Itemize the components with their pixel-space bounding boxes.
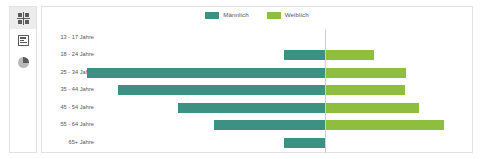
bar-male[interactable] [214,120,325,130]
chart-row: 13 - 17 Jahre [42,29,474,47]
sidebar [9,6,37,153]
chart-row: 65+ Jahre [42,134,474,152]
pie-chart-icon [18,57,29,68]
bar-male[interactable] [284,50,325,60]
chart-card: Männlich Weiblich 13 - 17 Jahre18 - 24 J… [41,6,473,153]
bar-female[interactable] [325,85,405,95]
chart-row: 45 - 54 Jahre [42,99,474,117]
legend-item-male[interactable]: Männlich [205,12,249,19]
bar-male[interactable] [284,138,325,148]
bar-female[interactable] [325,68,406,78]
bar-female[interactable] [325,50,374,60]
row-label: 35 - 44 Jahre [42,87,94,93]
chart-row: 25 - 34 Jahre [42,64,474,82]
row-label: 55 - 64 Jahre [42,122,94,128]
bar-female[interactable] [325,120,444,130]
bar-male[interactable] [118,85,325,95]
bar-list-icon [18,35,29,46]
row-label: 18 - 24 Jahre [42,52,94,58]
grid-icon [18,13,29,24]
chart-legend: Männlich Weiblich [42,12,472,19]
legend-swatch-male [205,12,219,19]
bar-male[interactable] [178,103,325,113]
sidebar-item-reports[interactable] [10,29,36,51]
chart-plot-area: 13 - 17 Jahre18 - 24 Jahre25 - 34 Jahre3… [42,29,474,153]
row-label: 45 - 54 Jahre [42,105,94,111]
legend-label-female: Weiblich [285,12,309,18]
center-axis [325,29,326,153]
chart-row: 35 - 44 Jahre [42,82,474,100]
legend-item-female[interactable]: Weiblich [267,12,309,19]
chart-row: 55 - 64 Jahre [42,117,474,135]
legend-swatch-female [267,12,281,19]
bar-female[interactable] [325,103,419,113]
chart-rows: 13 - 17 Jahre18 - 24 Jahre25 - 34 Jahre3… [42,29,474,153]
bar-male[interactable] [87,68,325,78]
chart-row: 18 - 24 Jahre [42,47,474,65]
sidebar-item-analytics[interactable] [10,51,36,73]
legend-label-male: Männlich [223,12,249,18]
sidebar-item-dashboard[interactable] [10,7,36,29]
chart-screenshot: Männlich Weiblich 13 - 17 Jahre18 - 24 J… [0,0,480,159]
row-label: 13 - 17 Jahre [42,35,94,41]
row-label: 65+ Jahre [42,140,94,146]
